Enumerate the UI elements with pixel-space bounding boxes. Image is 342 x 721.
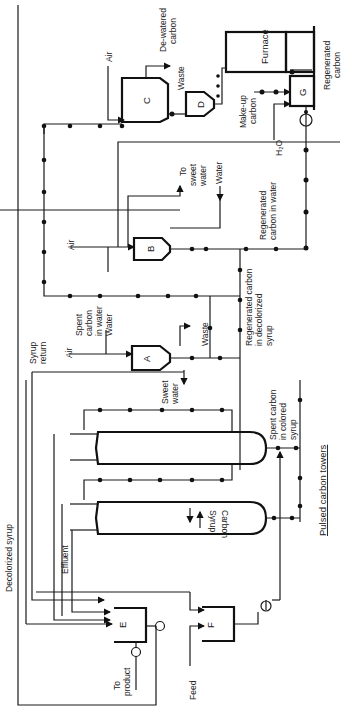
regen-water-label: Regenerated bbox=[258, 191, 268, 240]
regen-syrup-label-3: syrup bbox=[264, 325, 274, 346]
dewatered-label: De-watered bbox=[158, 8, 168, 52]
label-g: G bbox=[297, 89, 308, 96]
water-label-a: Water bbox=[104, 313, 114, 336]
spent-water-label-2: carbon bbox=[84, 310, 94, 336]
makeup-label: Make-up bbox=[238, 95, 248, 128]
spent-colored-label-2: in colored bbox=[278, 403, 288, 440]
label-d: D bbox=[195, 101, 206, 108]
to-sweet-label: To bbox=[178, 167, 188, 176]
carbon-flow-label: Carbon bbox=[220, 510, 230, 538]
air-label-c: Air bbox=[104, 51, 114, 62]
waste-label-a: Waste bbox=[200, 322, 210, 346]
label-b: B bbox=[145, 246, 156, 252]
regenerated-carbon-label-2: carbon bbox=[332, 52, 342, 78]
label-f: F bbox=[205, 622, 216, 628]
makeup-label-2: carbon bbox=[248, 98, 258, 124]
sweet-water-label-2: water bbox=[170, 383, 180, 405]
water-label: Water bbox=[214, 161, 224, 184]
waste-label-c: Waste bbox=[176, 66, 186, 90]
syrup-return-label-2: return bbox=[38, 342, 48, 364]
process-flow-diagram: Furnace Regenerated carbon G De-watered … bbox=[0, 0, 342, 721]
effluent-label: Effluent bbox=[60, 545, 70, 574]
to-sweet-label-3: water bbox=[198, 165, 208, 187]
label-a: A bbox=[141, 355, 152, 362]
to-sweet-label-2: sweet bbox=[188, 163, 198, 186]
feed-label: Feed bbox=[188, 680, 198, 700]
syrup-return-label: Syrup bbox=[28, 342, 38, 364]
spent-water-label: Spent bbox=[74, 313, 84, 336]
pulsed-towers-title: Pulsed carbon towers bbox=[317, 444, 328, 536]
label-e: E bbox=[117, 622, 128, 628]
regen-syrup-label: Regenerated carbon bbox=[244, 268, 254, 346]
regen-water-label-2: carbon in water bbox=[268, 182, 278, 240]
sweet-water-label: Sweet bbox=[160, 380, 170, 404]
spent-water-label-3: in water bbox=[94, 306, 104, 336]
to-product-label: To bbox=[112, 681, 122, 690]
syrup-flow-label: Syrup bbox=[208, 510, 218, 532]
label-c: C bbox=[141, 97, 152, 104]
air-label-b: Air bbox=[66, 239, 76, 250]
spent-colored-label: Spent carbon bbox=[268, 389, 278, 440]
spent-colored-label-3: syrup bbox=[288, 419, 298, 440]
h2o-label: H₂O bbox=[274, 140, 284, 156]
air-label-a: Air bbox=[64, 347, 74, 358]
regen-syrup-label-2: in decolorized bbox=[254, 293, 264, 346]
carbon-tower-2 bbox=[96, 502, 266, 534]
decolorized-syrup-label: Decolorized syrup bbox=[4, 524, 14, 592]
regenerated-carbon-label: Regenerated bbox=[322, 41, 332, 90]
dewatered-label-2: carbon bbox=[168, 18, 178, 44]
to-product-label-2: product bbox=[122, 667, 132, 696]
furnace-label: Furnace bbox=[259, 29, 270, 64]
